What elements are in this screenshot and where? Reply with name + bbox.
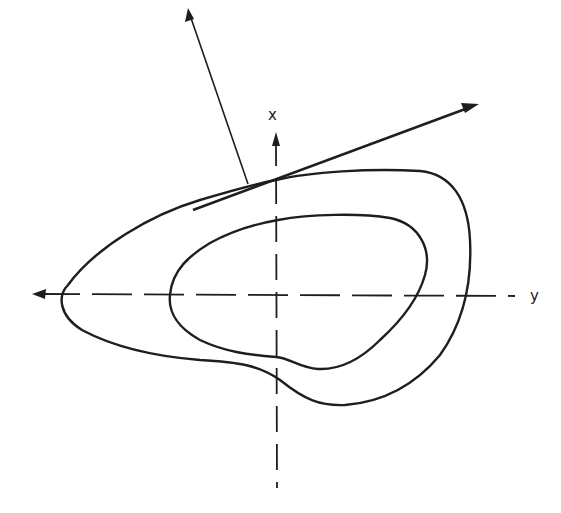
tangent-line: [193, 108, 468, 210]
x-axis-arrowhead-icon: [272, 132, 280, 146]
y-axis: [32, 289, 515, 299]
outer-closed-curve: [62, 170, 471, 405]
normal-line: [191, 18, 248, 184]
tangent-arrowhead-icon: [461, 103, 479, 113]
normal-vector: [185, 8, 248, 184]
x-axis: [272, 132, 280, 488]
tangent-vector: [193, 103, 479, 210]
normal-arrowhead-icon: [185, 8, 194, 22]
y-axis-label: y: [530, 289, 539, 304]
inner-closed-curve: [170, 215, 427, 369]
x-axis-label: x: [268, 108, 277, 123]
y-axis-arrowhead-icon: [32, 289, 46, 299]
diagram-canvas: [0, 0, 561, 513]
y-axis-line: [40, 294, 515, 296]
x-axis-line: [276, 140, 277, 488]
